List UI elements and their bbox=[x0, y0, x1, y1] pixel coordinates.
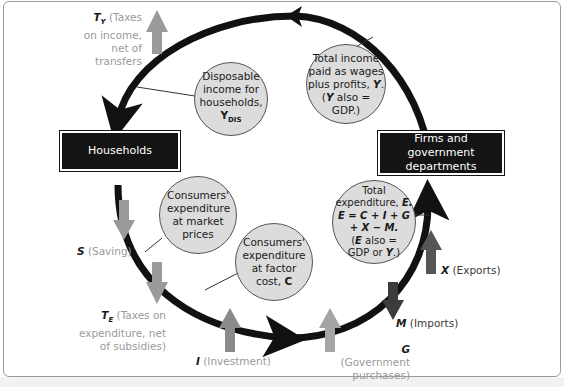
total-exp-symbol2: E bbox=[355, 235, 362, 246]
taxes-exp-text: (Taxes on expenditure, net of subsidies) bbox=[79, 309, 166, 352]
firms-government-box: Firms and government departments bbox=[378, 131, 504, 175]
disposable-income-symbol: Y bbox=[220, 109, 228, 121]
total-exp-line5: GDP or bbox=[348, 247, 383, 258]
disposable-income-subscript: DIS bbox=[228, 117, 241, 125]
label-investment: I (Investment) bbox=[196, 355, 271, 368]
consumers-factor-symbol: C bbox=[284, 275, 292, 287]
label-saving: S (Saving) bbox=[77, 245, 132, 258]
investment-text: (Investment) bbox=[203, 355, 271, 367]
total-exp-equation1: E = C + I + G bbox=[338, 210, 410, 221]
exports-text: (Exports) bbox=[452, 264, 500, 276]
total-exp-line6: .) bbox=[393, 247, 400, 258]
bubble-total-income: Total income paid as wages plus profits,… bbox=[306, 44, 386, 124]
label-taxes-expenditure: TE (Taxes on expenditure, net of subsidi… bbox=[70, 309, 166, 353]
total-exp-line4: also = bbox=[365, 235, 397, 246]
exports-symbol: X bbox=[441, 264, 449, 276]
imports-text: (Imports) bbox=[410, 317, 459, 329]
firms-label: Firms and government departments bbox=[380, 132, 502, 174]
total-exp-line1: Total bbox=[362, 185, 385, 196]
investment-symbol: I bbox=[196, 355, 200, 367]
consumers-factor-text: Consumers' expenditure at factor cost, bbox=[242, 236, 305, 287]
label-exports: X (Exports) bbox=[441, 264, 501, 277]
total-income-line2: paid as wages bbox=[309, 65, 384, 77]
label-taxes-income: TY (Taxes on income, net of transfers bbox=[78, 11, 142, 68]
imports-symbol: M bbox=[396, 317, 406, 329]
government-symbol: G bbox=[401, 343, 410, 355]
bubble-disposable-income: Disposable income for households, YDIS bbox=[194, 62, 268, 136]
saving-text: (Saving) bbox=[88, 245, 132, 257]
total-income-symbol2: Y bbox=[326, 91, 334, 103]
total-income-line3: plus profits, bbox=[308, 78, 370, 90]
saving-symbol: S bbox=[77, 245, 85, 257]
label-government: G (Government purchases) bbox=[338, 343, 410, 382]
government-text: (Government purchases) bbox=[340, 356, 410, 381]
households-label: Households bbox=[88, 144, 152, 158]
taxes-income-symbol: T bbox=[93, 11, 100, 23]
arrow-taxes-income bbox=[146, 10, 168, 54]
total-exp-symbol: E. bbox=[402, 197, 413, 208]
disposable-income-text: Disposable income for households, bbox=[199, 70, 262, 108]
bubble-total-expenditure: Total expenditure, E. E = C + I + G + X … bbox=[332, 180, 416, 264]
households-box: Households bbox=[60, 131, 180, 171]
taxes-exp-subscript: E bbox=[108, 316, 113, 324]
total-income-line1: Total income bbox=[313, 52, 379, 64]
total-exp-equation2: + X − M. bbox=[350, 222, 399, 233]
total-income-symbol: Y bbox=[373, 78, 381, 90]
bubble-consumers-market-prices: Consumers' expenditure at market prices bbox=[159, 176, 237, 254]
label-imports: M (Imports) bbox=[396, 317, 458, 330]
taxes-income-subscript: Y bbox=[101, 18, 106, 26]
total-income-line5: also = bbox=[337, 91, 370, 103]
consumers-market-text: Consumers' expenditure at market prices bbox=[167, 189, 229, 241]
bubble-consumers-factor-cost: Consumers' expenditure at factor cost, C bbox=[235, 223, 313, 301]
total-income-line6: GDP.) bbox=[332, 104, 360, 116]
total-exp-line2: expenditure, bbox=[335, 197, 398, 208]
